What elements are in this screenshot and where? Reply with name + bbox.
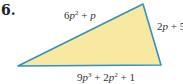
side-label-top: 6p2 + p	[64, 9, 96, 21]
triangle-figure: 6p2 + p 2p + 5 9p3 + 2p2 + 1	[0, 0, 183, 84]
side-label-bottom: 9p3 + 2p2 + 1	[77, 71, 135, 83]
side-label-right: 2p + 5	[157, 20, 183, 32]
